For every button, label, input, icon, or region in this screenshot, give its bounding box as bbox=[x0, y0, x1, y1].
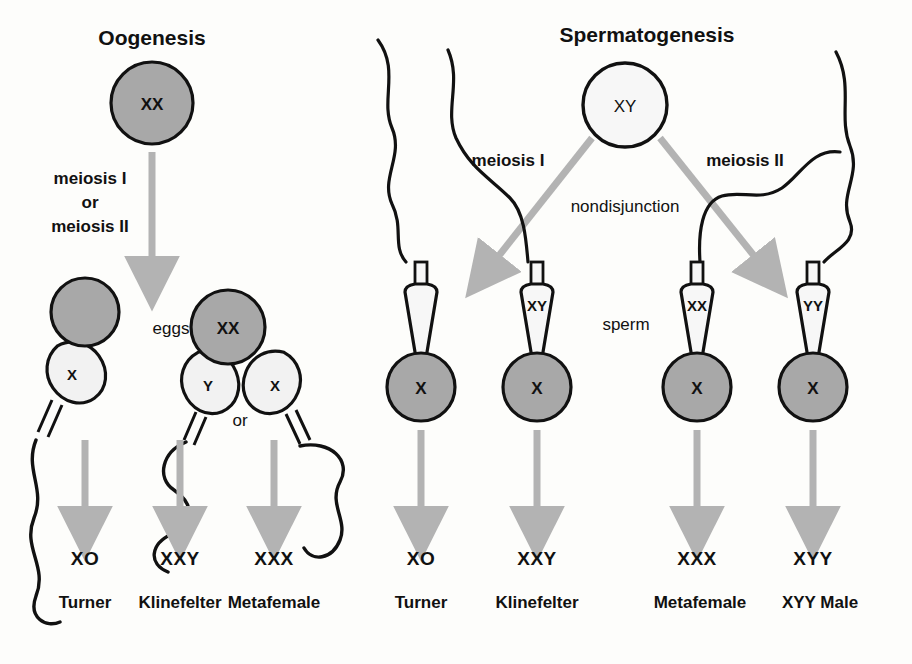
meiosis-i-label: meiosis I bbox=[472, 151, 545, 170]
egg-oogenesis-1 bbox=[51, 278, 119, 346]
egg-label-spermatogenesis-1: X bbox=[415, 379, 427, 398]
egg-spermatogenesis-4: X bbox=[779, 353, 847, 421]
outcome-syndrome-spermatogenesis-2: Klinefelter bbox=[495, 593, 579, 612]
outcome-syndrome-spermatogenesis-3: Metafemale bbox=[654, 593, 747, 612]
or-label: or bbox=[232, 411, 247, 430]
sperm-label-oogenesis-2a: Y bbox=[203, 377, 213, 394]
meiosis-ii-label: meiosis II bbox=[706, 151, 783, 170]
outcome-syndrome-oogenesis-2: Klinefelter bbox=[138, 593, 222, 612]
oogenesis-meiosis-line-3: meiosis II bbox=[51, 217, 128, 236]
sperm-head-label-4: YY bbox=[803, 297, 823, 314]
outcome-karyotype-spermatogenesis-2: XXY bbox=[517, 548, 557, 569]
spermatogenesis-heading: Spermatogenesis bbox=[559, 23, 734, 46]
oocyte-parent-cell: XX bbox=[111, 62, 193, 144]
egg-spermatogenesis-2: X bbox=[503, 353, 571, 421]
sperm-head-label-2: XY bbox=[527, 297, 547, 314]
egg-spermatogenesis-1: X bbox=[387, 353, 455, 421]
oogenesis-heading: Oogenesis bbox=[98, 26, 205, 49]
outcome-karyotype-spermatogenesis-3: XXX bbox=[677, 548, 717, 569]
sperm-label-oogenesis-2b: X bbox=[270, 377, 280, 394]
sperm-label-oogenesis-1: X bbox=[67, 366, 77, 383]
nondisjunction-label: nondisjunction bbox=[571, 197, 680, 216]
outcome-karyotype-spermatogenesis-4: XYY bbox=[793, 548, 833, 569]
egg-label-spermatogenesis-2: X bbox=[531, 379, 543, 398]
nondisjunction-diagram: Oogenesis Spermatogenesis XX meiosis I o… bbox=[0, 0, 912, 664]
outcome-karyotype-spermatogenesis-1: XO bbox=[407, 548, 435, 569]
outcome-syndrome-spermatogenesis-1: Turner bbox=[395, 593, 448, 612]
egg-label-oogenesis-2: XX bbox=[217, 319, 240, 338]
egg-label-spermatogenesis-4: X bbox=[807, 379, 819, 398]
sperm-label: sperm bbox=[602, 315, 649, 334]
egg-oogenesis-2: XX bbox=[191, 290, 265, 364]
outcome-karyotype-oogenesis-1: XO bbox=[71, 548, 99, 569]
spermatocyte-parent-label: XY bbox=[614, 97, 637, 116]
outcome-syndrome-oogenesis-3: Metafemale bbox=[228, 593, 321, 612]
sperm-head-label-3: XX bbox=[687, 297, 707, 314]
oogenesis-meiosis-line-1: meiosis I bbox=[54, 169, 127, 188]
egg-label-spermatogenesis-3: X bbox=[691, 379, 703, 398]
egg-spermatogenesis-3: X bbox=[663, 353, 731, 421]
oocyte-parent-label: XX bbox=[141, 95, 164, 114]
outcome-karyotype-oogenesis-2: XXY bbox=[160, 548, 200, 569]
outcome-syndrome-oogenesis-1: Turner bbox=[59, 593, 112, 612]
spermatocyte-parent-cell: XY bbox=[583, 63, 667, 147]
outcome-karyotype-oogenesis-3: XXX bbox=[254, 548, 294, 569]
oogenesis-meiosis-line-2: or bbox=[82, 193, 99, 212]
eggs-label: eggs bbox=[153, 319, 190, 338]
outcome-syndrome-spermatogenesis-4: XYY Male bbox=[782, 593, 858, 612]
